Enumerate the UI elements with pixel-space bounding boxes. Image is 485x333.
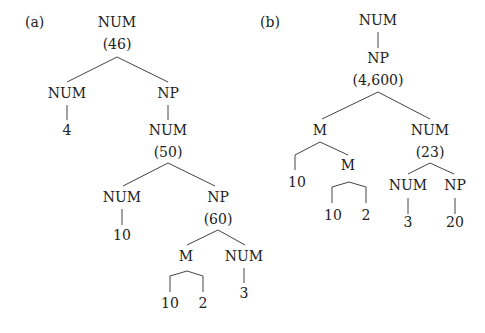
edge [430,163,454,174]
tree-b: (b) NUM NP (4,600) M 10 M 10 2 NUM (23) … [260,12,466,230]
tree-b-m-outer-leaf-10: 10 [288,174,306,190]
tree-b-m-inner-leaf-10: 10 [324,207,342,223]
tree-b-np-value: (4,600) [352,72,403,88]
edge [408,163,430,174]
tree-b-root-category: NUM [359,12,397,28]
edge [123,163,168,186]
tree-a-m-leaf-2: 2 [199,295,208,311]
tree-a-num-10-category: NUM [103,189,141,205]
tree-a-root-category: NUM [98,14,136,30]
tree-a-leaf-3: 3 [240,285,249,301]
tree-b-np-category: NP [367,50,389,66]
tree-a-leaf-4: 4 [63,122,72,138]
edge [322,92,378,119]
tree-b-leaf-3: 3 [404,214,413,230]
tree-b-m-inner-category: M [341,157,355,173]
tree-a-num-4-category: NUM [48,85,86,101]
syntax-tree-figure: (a) NUM (46) NUM 4 NP NUM (50) NUM 10 NP… [0,0,485,333]
tree-a-np-category: NP [157,85,179,101]
edge [170,271,203,292]
tree-a-m-leaf-10: 10 [161,295,179,311]
edge [117,57,168,82]
tree-b-m-inner-leaf-2: 2 [362,207,371,223]
tree-b-num-23-value: (23) [416,144,445,160]
edge [168,163,215,186]
tree-b-np-20-category: NP [444,177,466,193]
edge [378,92,430,119]
tree-a-label: (a) [25,14,44,30]
edge [218,230,245,245]
tree-a-root-value: (46) [103,36,132,52]
tree-a-m-category: M [179,248,193,264]
tree-a-np-60-value: (60) [204,211,233,227]
tree-a-num-50-category: NUM [149,122,187,138]
edge [320,142,348,155]
tree-a: (a) NUM (46) NUM 4 NP NUM (50) NUM 10 NP… [25,14,263,311]
edge [67,57,117,82]
tree-b-num-3-category: NUM [389,177,427,193]
tree-a-num-3-category: NUM [225,248,263,264]
edge [332,182,366,203]
edge [295,142,320,155]
edge [187,230,218,245]
tree-a-leaf-10: 10 [113,227,131,243]
tree-b-leaf-20: 20 [446,214,464,230]
tree-b-label: (b) [260,14,280,30]
tree-a-num-50-value: (50) [154,144,183,160]
tree-b-num-23-category: NUM [411,122,449,138]
tree-b-m-outer-category: M [313,122,327,138]
tree-a-np-60-category: NP [207,189,229,205]
